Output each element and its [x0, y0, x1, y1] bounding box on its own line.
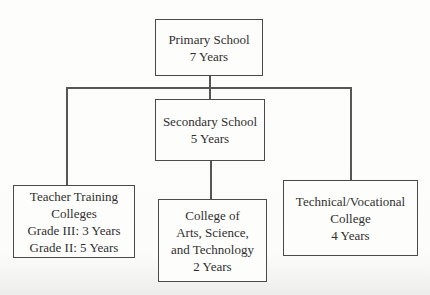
edge-drop-technical: [350, 87, 352, 181]
node-technical-line-1: Technical/Vocational: [296, 193, 405, 210]
node-technical-line-2: College: [330, 210, 370, 227]
node-arts-line-3: and Technology: [171, 241, 254, 258]
education-flowchart: Primary School 7 Years Secondary School …: [0, 0, 430, 295]
node-secondary-school: Secondary School 5 Years: [155, 99, 265, 161]
node-primary-school-line-2: 7 Years: [190, 48, 228, 65]
node-arts-line-1: College of: [185, 207, 240, 224]
node-primary-school-line-1: Primary School: [168, 31, 249, 48]
edge-secondary-to-arts: [210, 161, 212, 200]
node-teacher-line-4: Grade II: 5 Years: [30, 239, 119, 256]
node-arts-line-2: Arts, Science,: [176, 224, 249, 241]
node-teacher-training-colleges: Teacher Training Colleges Grade III: 3 Y…: [13, 185, 135, 258]
node-technical-vocational-college: Technical/Vocational College 4 Years: [283, 180, 418, 256]
node-primary-school: Primary School 7 Years: [155, 19, 263, 76]
node-secondary-school-line-2: 5 Years: [191, 130, 229, 147]
edge-drop-teacher: [66, 87, 68, 186]
node-secondary-school-line-1: Secondary School: [163, 113, 257, 130]
node-teacher-line-2: Colleges: [51, 205, 97, 222]
node-college-arts-science-technology: College of Arts, Science, and Technology…: [158, 199, 267, 282]
node-teacher-line-1: Teacher Training: [30, 188, 118, 205]
node-teacher-line-3: Grade III: 3 Years: [27, 222, 120, 239]
node-arts-line-4: 2 Years: [193, 258, 231, 275]
node-technical-line-3: 4 Years: [331, 227, 369, 244]
